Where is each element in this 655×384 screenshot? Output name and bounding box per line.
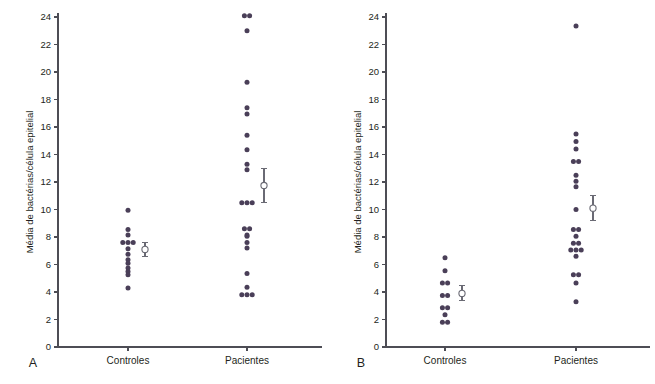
data-point (440, 281, 445, 286)
data-point (574, 147, 579, 152)
y-tick-label: 18 (368, 94, 379, 105)
data-point (126, 285, 131, 290)
data-point (445, 281, 450, 286)
figure-container: Média de bactérias/célula epitelial02468… (0, 0, 655, 384)
data-point (571, 159, 576, 164)
data-point (574, 139, 579, 144)
data-point (242, 226, 247, 231)
data-point (443, 255, 448, 260)
data-point (568, 248, 573, 253)
category-label-controles: Controles (107, 355, 150, 366)
data-point (574, 281, 579, 286)
y-axis-title: Média de bactérias/célula epitelial (24, 111, 35, 254)
data-point (443, 312, 448, 317)
y-tick-label: 20 (40, 66, 51, 77)
data-point (574, 23, 579, 28)
data-point (245, 246, 250, 251)
data-point (574, 234, 579, 239)
data-point (239, 200, 244, 205)
data-point (126, 261, 131, 266)
data-point (120, 240, 125, 245)
y-tick-label: 18 (40, 94, 51, 105)
y-tick-label: 10 (368, 204, 379, 215)
data-point (576, 241, 581, 246)
data-point (245, 167, 250, 172)
data-point (126, 208, 131, 213)
panel-letter: B (357, 356, 365, 370)
data-point (245, 133, 250, 138)
data-point (574, 184, 579, 189)
data-point (245, 240, 250, 245)
y-tick-label: 16 (368, 121, 379, 132)
data-point (245, 162, 250, 167)
y-axis-title: Média de bactérias/célula epitelial (352, 111, 363, 254)
data-point (574, 179, 579, 184)
data-point (574, 248, 579, 253)
data-point (579, 248, 584, 253)
data-point (245, 271, 250, 276)
mean-marker (261, 182, 267, 188)
y-tick-label: 20 (368, 66, 379, 77)
data-point (245, 80, 250, 85)
data-point (574, 131, 579, 136)
data-point (574, 299, 579, 304)
mean-marker (459, 290, 465, 296)
data-point (250, 292, 255, 297)
data-point (445, 293, 450, 298)
y-tick-label: 22 (368, 39, 379, 50)
y-tick-label: 16 (40, 121, 51, 132)
category-label-pacientes: Pacientes (225, 355, 269, 366)
data-point (245, 234, 250, 239)
panel-a: Média de bactérias/célula epitelial02468… (0, 0, 330, 384)
data-point (245, 200, 250, 205)
category-label-controles: Controles (424, 355, 467, 366)
data-point (250, 200, 255, 205)
data-point (576, 272, 581, 277)
data-point (574, 207, 579, 212)
data-point (574, 173, 579, 178)
panel-letter: A (29, 356, 38, 370)
data-point (445, 320, 450, 325)
mean-marker (590, 205, 596, 211)
data-point (126, 240, 131, 245)
data-point (440, 320, 445, 325)
data-point (245, 292, 250, 297)
panel-b: Média de bactérias/célula epitelial02468… (330, 0, 655, 384)
y-tick-label: 10 (40, 204, 51, 215)
data-point (245, 285, 250, 290)
data-point (247, 226, 252, 231)
data-point (245, 28, 250, 33)
y-tick-label: 14 (368, 149, 379, 160)
data-point (126, 252, 131, 257)
y-tick-label: 0 (374, 341, 379, 352)
data-point (126, 232, 131, 237)
y-tick-label: 4 (46, 286, 51, 297)
y-tick-label: 8 (374, 231, 379, 242)
data-point (245, 147, 250, 152)
panel-b-plot: Média de bactérias/célula epitelial02468… (330, 0, 655, 384)
y-tick-label: 24 (40, 11, 51, 22)
y-tick-label: 24 (368, 11, 379, 22)
y-tick-label: 6 (46, 259, 51, 270)
data-point (440, 305, 445, 310)
data-point (576, 159, 581, 164)
data-point (126, 227, 131, 232)
y-tick-label: 2 (374, 314, 379, 325)
y-tick-label: 4 (374, 286, 379, 297)
data-point (126, 246, 131, 251)
data-point (131, 240, 136, 245)
data-point (574, 254, 579, 259)
data-point (571, 272, 576, 277)
data-point (239, 292, 244, 297)
category-label-pacientes: Pacientes (554, 355, 598, 366)
data-point (571, 227, 576, 232)
y-tick-label: 6 (374, 259, 379, 270)
y-tick-label: 12 (40, 176, 51, 187)
panel-a-plot: Média de bactérias/célula epitelial02468… (0, 0, 330, 384)
mean-marker (142, 246, 148, 252)
data-point (443, 268, 448, 273)
y-tick-label: 0 (46, 341, 51, 352)
data-point (245, 111, 250, 116)
data-point (126, 272, 131, 277)
y-tick-label: 12 (368, 176, 379, 187)
